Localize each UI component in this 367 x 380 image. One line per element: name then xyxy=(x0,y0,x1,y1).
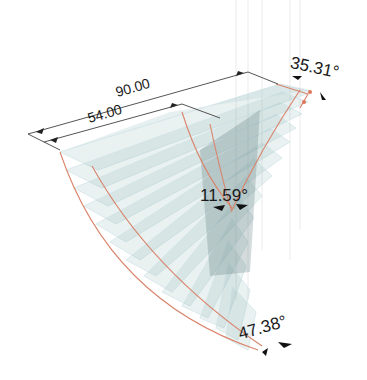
bottom-angle-arrow-left xyxy=(262,348,268,356)
middle-angle-label: 11.59° xyxy=(200,186,248,206)
top-angle-arrow-right xyxy=(320,92,326,100)
bottom-angle-arrow-right xyxy=(278,342,292,348)
top-vertex-dot-2 xyxy=(302,100,306,104)
top-vertex-dot xyxy=(308,90,312,94)
top-angle-arrow-left xyxy=(292,76,302,80)
